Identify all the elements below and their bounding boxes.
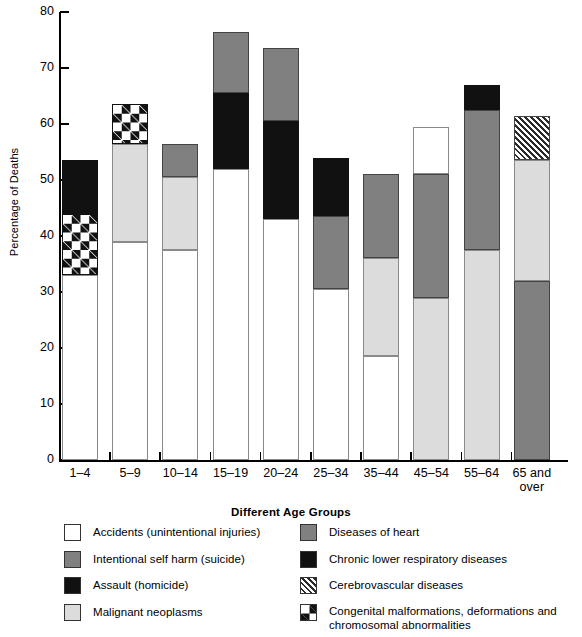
bar-segment-heart[interactable]: [413, 174, 449, 297]
legend-swatch-heart-icon: [300, 524, 317, 541]
bar-segment-neoplasms[interactable]: [363, 258, 399, 356]
bar-20-24[interactable]: [263, 48, 299, 460]
legend-item-homicide[interactable]: Assault (homicide): [64, 577, 304, 594]
legend-column-right: Diseases of heartChronic lower respirato…: [300, 524, 582, 637]
legend-swatch-homicide-icon: [64, 577, 81, 594]
y-axis-tick-label: 10: [12, 397, 54, 409]
bar-segment-respiratory[interactable]: [464, 85, 500, 110]
bar-segment-accidents[interactable]: [263, 219, 299, 460]
bar-segment-neoplasms[interactable]: [514, 160, 550, 280]
x-axis-tick: [109, 452, 111, 461]
y-axis-tick-label: 70: [12, 61, 54, 73]
bar-segment-suicide[interactable]: [162, 144, 198, 178]
bar-segment-suicide[interactable]: [313, 216, 349, 289]
bar-segment-neoplasms[interactable]: [112, 144, 148, 242]
bar-1-4[interactable]: [62, 160, 98, 460]
x-axis-label: 65 andover: [502, 466, 562, 494]
bar-5-9[interactable]: [112, 104, 148, 460]
x-axis-tick: [410, 452, 412, 461]
bar-45-54[interactable]: [413, 127, 449, 460]
bar-segment-accidents[interactable]: [112, 242, 148, 460]
x-axis-tick: [59, 452, 61, 461]
bar-segment-neoplasms[interactable]: [464, 250, 500, 460]
x-axis-spine: [59, 460, 568, 462]
legend-swatch-respiratory-icon: [300, 551, 317, 568]
bar-segment-neoplasms[interactable]: [162, 177, 198, 250]
bar-segment-cerebro[interactable]: [514, 116, 550, 161]
bar-segment-homicide[interactable]: [213, 93, 249, 169]
y-axis-tick-label: 20: [12, 341, 54, 353]
bar-segment-accidents[interactable]: [62, 275, 98, 460]
bar-segment-heart[interactable]: [514, 281, 550, 460]
x-axis-title: Different Age Groups: [0, 506, 582, 518]
x-axis-tick: [360, 452, 362, 461]
legend-swatch-cerebro-icon: [300, 577, 317, 594]
legend-item-respiratory[interactable]: Chronic lower respiratory diseases: [300, 551, 582, 568]
bar-segment-homicide[interactable]: [263, 121, 299, 219]
bar-65-and-over[interactable]: [514, 116, 550, 460]
legend-label: Intentional self harm (suicide): [93, 551, 245, 567]
y-axis-tick-label: 0: [12, 453, 54, 465]
legend-swatch-suicide-icon: [64, 551, 81, 568]
x-axis-tick: [310, 452, 312, 461]
bar-segment-respiratory[interactable]: [62, 160, 98, 213]
legend-label: Accidents (unintentional injuries): [93, 524, 260, 540]
bar-segment-suicide[interactable]: [263, 48, 299, 121]
chart-figure: 80706050403020100 Percentage of Deaths 1…: [0, 0, 582, 637]
bar-segment-heart[interactable]: [464, 110, 500, 250]
bar-segment-accidents[interactable]: [413, 127, 449, 175]
legend-label: Congenital malformations, deformations a…: [329, 604, 557, 633]
legend-label: Chronic lower respiratory diseases: [329, 551, 507, 567]
legend-item-cerebro[interactable]: Cerebrovascular diseases: [300, 577, 582, 594]
legend-swatch-accidents-icon: [64, 524, 81, 541]
bar-segment-accidents[interactable]: [213, 169, 249, 460]
legend-item-heart[interactable]: Diseases of heart: [300, 524, 582, 541]
bar-segment-accidents[interactable]: [313, 289, 349, 460]
legend-label: Assault (homicide): [93, 577, 189, 593]
bar-segment-homicide[interactable]: [313, 158, 349, 217]
legend-label: Cerebrovascular diseases: [329, 577, 463, 593]
x-axis-tick: [511, 452, 513, 461]
bar-segment-accidents[interactable]: [363, 356, 399, 460]
bar-segment-heart[interactable]: [363, 174, 399, 258]
x-axis-tick: [260, 452, 262, 461]
legend-item-accidents[interactable]: Accidents (unintentional injuries): [64, 524, 304, 541]
bar-55-64[interactable]: [464, 85, 500, 460]
y-axis-tick-label: 80: [12, 5, 54, 17]
bar-segment-congenital[interactable]: [62, 214, 98, 276]
bar-segment-accidents[interactable]: [162, 250, 198, 460]
chart-legend: Accidents (unintentional injuries)Intent…: [0, 524, 582, 637]
bar-25-34[interactable]: [313, 158, 349, 460]
x-axis-tick: [461, 452, 463, 461]
legend-label: Diseases of heart: [329, 524, 419, 540]
bar-segment-suicide[interactable]: [213, 32, 249, 94]
legend-swatch-neoplasms-icon: [64, 604, 81, 621]
legend-item-congenital[interactable]: Congenital malformations, deformations a…: [300, 604, 582, 634]
x-axis-tick: [210, 452, 212, 461]
x-axis-tick: [159, 452, 161, 461]
legend-swatch-congenital-icon: [300, 604, 317, 621]
legend-item-suicide[interactable]: Intentional self harm (suicide): [64, 551, 304, 568]
bar-15-19[interactable]: [213, 32, 249, 460]
legend-column-left: Accidents (unintentional injuries)Intent…: [64, 524, 304, 630]
bar-10-14[interactable]: [162, 144, 198, 460]
bar-35-44[interactable]: [363, 174, 399, 460]
y-axis-title: Percentage of Deaths: [8, 112, 20, 292]
legend-label: Malignant neoplasms: [93, 604, 203, 620]
plot-area: [60, 12, 568, 460]
bar-segment-congenital[interactable]: [112, 104, 148, 143]
bar-segment-neoplasms[interactable]: [413, 298, 449, 460]
legend-item-neoplasms[interactable]: Malignant neoplasms: [64, 604, 304, 621]
